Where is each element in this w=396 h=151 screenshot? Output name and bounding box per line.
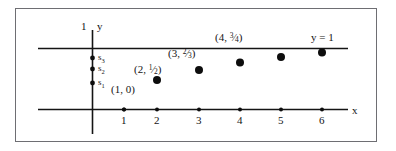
data-point-6 (318, 49, 326, 57)
data-point-1 (122, 108, 126, 112)
x-tick-label-1: 1 (121, 115, 127, 126)
y-mark-label-s1-sub: 1 (102, 82, 105, 89)
y-tick-label-1: 1 (81, 21, 87, 32)
plot-canvas (0, 0, 396, 151)
point-label-4-fraction: 3⁄4 (230, 32, 239, 43)
asymptote-label: y = 1 (311, 32, 334, 43)
data-point-3 (195, 66, 203, 74)
point-label-4-prefix: (4, (215, 31, 230, 43)
point-label-2: (2, 1⁄2) (134, 64, 162, 75)
point-label-3-prefix: (3, (168, 47, 183, 59)
point-label-3-fraction: 2⁄3 (183, 48, 192, 59)
point-label-2-suffix: ) (158, 63, 162, 75)
x-tick-dot-4 (238, 108, 242, 112)
data-point-5 (277, 53, 285, 61)
data-point-2 (153, 76, 161, 84)
y-mark-label-s3-sub: 3 (102, 57, 105, 64)
figure-container: 1 y x y = 1 s3 s2 s1 (1, 0) (2, 1⁄2) (3,… (0, 0, 396, 151)
x-tick-dot-5 (279, 108, 283, 112)
x-tick-dot-2 (155, 108, 159, 112)
point-label-4-suffix: ) (239, 31, 243, 43)
y-mark-dot-s2 (90, 67, 95, 72)
point-label-2-fraction: 1⁄2 (149, 64, 158, 75)
y-mark-label-s2-sub: 2 (102, 68, 105, 75)
x-tick-label-5: 5 (278, 115, 284, 126)
x-tick-label-3: 3 (196, 115, 202, 126)
x-tick-label-2: 2 (154, 115, 160, 126)
x-tick-dot-6 (320, 108, 324, 112)
y-mark-dot-s3 (90, 56, 95, 61)
data-point-4 (236, 59, 244, 67)
point-label-4: (4, 3⁄4) (215, 32, 243, 43)
y-mark-label-s1: s1 (98, 78, 105, 89)
point-label-3: (3, 2⁄3) (168, 48, 196, 59)
y-axis-label: y (97, 21, 103, 32)
y-mark-dot-s1 (90, 81, 95, 86)
point-label-3-suffix: ) (192, 47, 196, 59)
point-label-2-prefix: (2, (134, 63, 149, 75)
x-tick-label-4: 4 (237, 115, 243, 126)
x-tick-label-6: 6 (319, 115, 325, 126)
x-tick-dot-3 (197, 108, 201, 112)
x-axis-label: x (352, 105, 358, 116)
y-mark-label-s2: s2 (98, 64, 105, 75)
point-label-1: (1, 0) (111, 84, 135, 95)
